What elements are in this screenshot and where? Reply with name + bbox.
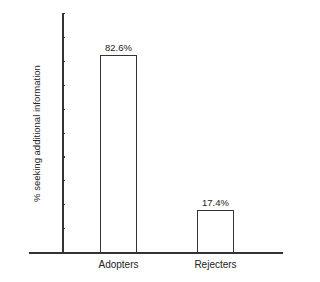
y-tick — [62, 85, 65, 86]
y-tick — [62, 156, 65, 157]
bar-adopters — [100, 55, 137, 252]
category-label-adopters: Adopters — [79, 259, 159, 270]
y-axis-label: % seeking additional information — [31, 34, 42, 234]
y-tick — [62, 61, 65, 62]
y-tick — [62, 37, 65, 38]
y-tick — [62, 13, 65, 14]
category-label-rejecters: Rejecters — [176, 259, 256, 270]
y-tick — [62, 228, 65, 229]
y-tick — [62, 204, 65, 205]
value-label-rejecters: 17.4% — [186, 197, 246, 208]
value-label-adopters: 82.6% — [89, 42, 149, 53]
y-tick — [62, 133, 65, 134]
y-tick — [62, 109, 65, 110]
y-tick — [62, 180, 65, 181]
bar-rejecters — [197, 210, 234, 252]
x-axis — [29, 252, 283, 254]
